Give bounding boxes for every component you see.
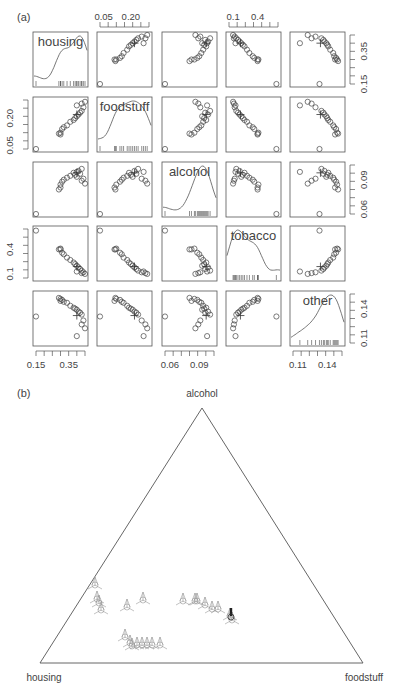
- data-point: [199, 300, 204, 305]
- data-point: [205, 103, 210, 108]
- scatter-panel-alcohol-vs-tobacco: [226, 162, 281, 217]
- data-point: [97, 314, 102, 319]
- ternary-point: [136, 592, 150, 604]
- scatter-panel-other-vs-housing: [33, 291, 88, 346]
- bottom-axis-housing: 0.150.35: [27, 351, 85, 370]
- data-point: [233, 334, 238, 339]
- data-point: [274, 146, 279, 151]
- data-point: [74, 103, 79, 108]
- data-point: [297, 41, 302, 46]
- ternary-point: [211, 601, 225, 613]
- data-point: [145, 271, 150, 276]
- data-point: [317, 146, 322, 151]
- scatter-panel-tobacco-vs-alcohol: [162, 226, 217, 281]
- scatter-panel-other-vs-foodstuff: [97, 291, 152, 346]
- plus-marker: [236, 111, 244, 119]
- variable-label-alcohol: alcohol: [169, 164, 210, 179]
- tick-label: 0.1: [4, 267, 15, 280]
- data-point: [141, 169, 146, 174]
- data-point: [82, 326, 87, 331]
- data-point: [193, 271, 198, 276]
- plus-marker: [316, 111, 324, 119]
- scatter-panel-housing-vs-alcohol: [162, 32, 217, 87]
- data-point: [141, 334, 146, 339]
- right-axis-other: 0.110.14: [350, 294, 369, 347]
- scatter-panel-alcohol-vs-housing: [33, 162, 88, 217]
- scatter-panel-foodstuff-vs-housing: [33, 97, 88, 152]
- variable-label-tobacco: tobacco: [231, 228, 277, 243]
- scatter-panel-foodstuff-vs-tobacco: [226, 97, 281, 152]
- tick-label: 0.05: [94, 11, 113, 22]
- panel-label-b: (b): [17, 387, 30, 399]
- data-point: [317, 211, 322, 216]
- scatter-panel-housing-vs-foodstuff: [97, 32, 152, 87]
- data-point: [317, 228, 322, 233]
- left-axis-tobacco: 0.10.4: [4, 229, 28, 281]
- left-axis-foodstuff: 0.050.20: [4, 100, 28, 155]
- data-point: [231, 326, 236, 331]
- data-point: [317, 81, 322, 86]
- ternary-highlighted-point: [228, 608, 234, 620]
- data-point: [162, 314, 167, 319]
- data-point: [141, 41, 146, 46]
- tick-label: 0.20: [122, 11, 141, 22]
- right-axis-housing: 0.150.35: [350, 35, 369, 93]
- ternary-point: [153, 637, 167, 649]
- panel-label-a: (a): [17, 11, 30, 23]
- data-point: [33, 211, 38, 216]
- plus-marker: [130, 312, 138, 320]
- data-point: [33, 228, 38, 233]
- bottom-axis-alcohol: 0.060.09: [161, 351, 214, 370]
- ternary-plot: alcoholhousingfoodstuff: [26, 388, 383, 683]
- tick-label: 0.05: [4, 136, 15, 155]
- data-point: [274, 211, 279, 216]
- tick-label: 0.35: [59, 359, 78, 370]
- data-point: [193, 326, 198, 331]
- right-axis-alcohol: 0.060.09: [350, 165, 369, 218]
- data-point: [162, 146, 167, 151]
- vertex-label-bottom-right: foodstuff: [345, 672, 383, 683]
- tick-label: 0.4: [4, 243, 15, 256]
- tick-label: 0.09: [358, 170, 369, 189]
- scatter-panel-housing-vs-other: [290, 32, 345, 87]
- scatter-panel-other-vs-tobacco: [226, 291, 281, 346]
- data-point: [305, 271, 310, 276]
- variable-label-foodstuff: foodstuff: [100, 99, 150, 114]
- tick-label: 0.06: [358, 200, 369, 219]
- data-point: [97, 211, 102, 216]
- tick-label: 0.20: [4, 109, 15, 128]
- tick-label: 0.15: [358, 75, 369, 94]
- scatter-panel-foodstuff-vs-other: [290, 97, 345, 152]
- scatterplot-matrix: housingfoodstuffalcoholtobaccoother0.150…: [4, 11, 369, 370]
- ternary-point: [120, 599, 134, 611]
- scatter-panel-tobacco-vs-housing: [33, 226, 88, 281]
- data-point: [331, 123, 336, 128]
- ternary-point: [90, 591, 104, 603]
- density-panel-alcohol: alcohol: [162, 162, 217, 217]
- data-point: [121, 300, 126, 305]
- bottom-axis-other: 0.110.14: [289, 351, 342, 370]
- scatter-panel-tobacco-vs-other: [290, 226, 345, 281]
- scatter-panel-foodstuff-vs-alcohol: [162, 97, 217, 152]
- scatter-panel-alcohol-vs-other: [290, 162, 345, 217]
- density-panel-foodstuff: foodstuff: [97, 97, 152, 152]
- data-point: [297, 269, 302, 274]
- plus-marker: [202, 312, 210, 320]
- data-point: [274, 81, 279, 86]
- variable-label-housing: housing: [38, 34, 84, 49]
- tick-label: 0.14: [358, 299, 369, 318]
- vertex-label-bottom-left: housing: [26, 672, 61, 683]
- data-point: [33, 146, 38, 151]
- data-point: [64, 300, 69, 305]
- variable-label-other: other: [303, 293, 333, 308]
- tick-label: 0.11: [289, 359, 307, 370]
- ternary-point: [176, 593, 190, 605]
- tick-label: 0.35: [358, 42, 369, 61]
- data-point: [162, 81, 167, 86]
- data-point: [97, 228, 102, 233]
- data-point: [297, 169, 302, 174]
- scatter-panel-housing-vs-tobacco: [226, 32, 281, 87]
- tick-label: 0.11: [358, 329, 369, 347]
- data-point: [205, 334, 210, 339]
- data-point: [193, 32, 198, 37]
